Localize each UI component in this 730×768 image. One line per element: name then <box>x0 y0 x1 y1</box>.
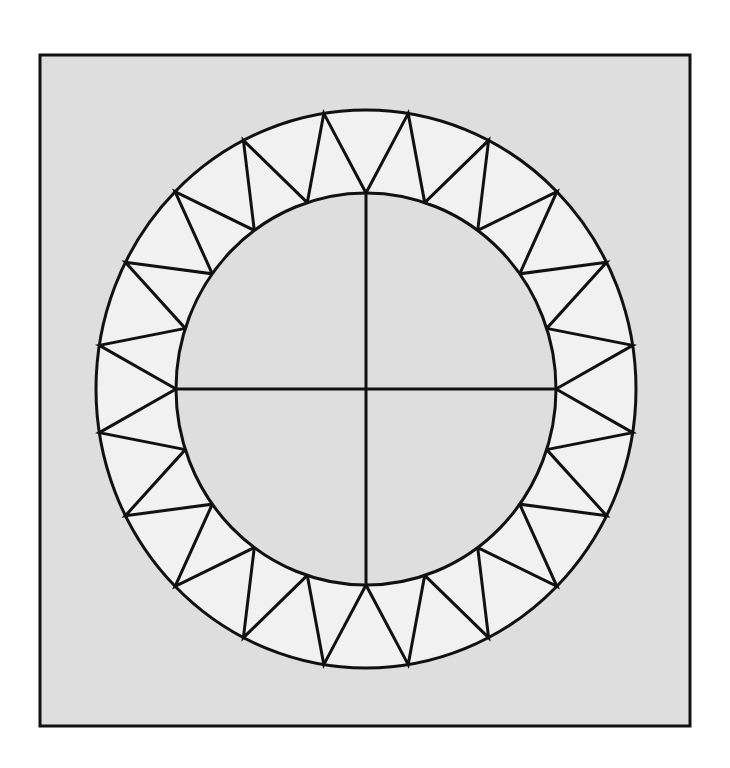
sun-ring-diagram <box>0 0 730 768</box>
